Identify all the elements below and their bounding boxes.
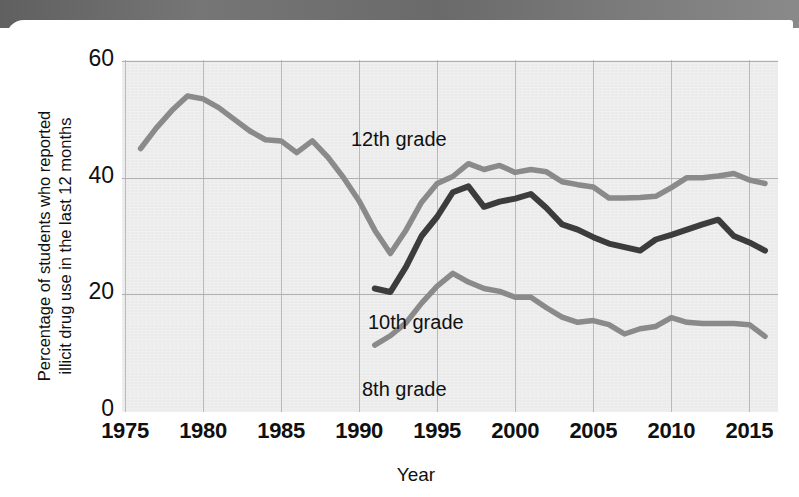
line-12th-grade xyxy=(141,96,765,254)
figure-card: 0204060197519801985199019952000200520102… xyxy=(6,20,793,490)
x-tick-label-1985: 1985 xyxy=(241,418,321,444)
y-axis-title-line1: Percentage of students who reported xyxy=(34,66,55,426)
series-lines xyxy=(122,60,778,412)
x-tick-label-2010: 2010 xyxy=(631,418,711,444)
line-10th-grade xyxy=(375,186,765,292)
x-tick-label-1995: 1995 xyxy=(397,418,477,444)
x-tick-label-2005: 2005 xyxy=(553,418,633,444)
series-label-grade8: 8th grade xyxy=(362,378,447,401)
x-axis-title: Year xyxy=(336,464,496,486)
x-tick-label-2000: 2000 xyxy=(475,418,555,444)
plot-area: 12th grade 10th grade 8th grade xyxy=(122,60,778,412)
series-label-grade10: 10th grade xyxy=(368,311,464,334)
y-axis-title: Percentage of students who reported illi… xyxy=(34,66,76,426)
x-tick-label-1980: 1980 xyxy=(163,418,243,444)
series-label-grade12: 12th grade xyxy=(351,128,447,151)
x-tick-label-1990: 1990 xyxy=(319,418,399,444)
line-8th-grade xyxy=(375,273,765,345)
x-tick-label-1975: 1975 xyxy=(85,418,165,444)
x-tick-label-2015: 2015 xyxy=(709,418,789,444)
y-axis-title-line2: illicit drug use in the last 12 months xyxy=(55,66,76,426)
